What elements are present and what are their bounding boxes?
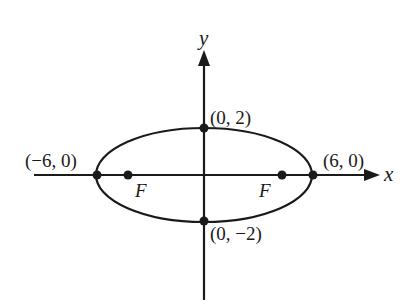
vertex-label-right: (6, 0) xyxy=(323,151,364,170)
vertex-point-top xyxy=(200,124,209,133)
vertex-label-left: (−6, 0) xyxy=(25,151,77,170)
x-axis-arrow-icon xyxy=(364,169,380,181)
focus-label-right: F xyxy=(259,181,271,200)
focus-point-right xyxy=(278,171,287,180)
focus-point-left xyxy=(124,171,133,180)
x-axis-label: x xyxy=(384,164,393,185)
focus-label-left: F xyxy=(135,181,147,200)
y-axis-label: y xyxy=(199,28,208,49)
vertex-label-bottom: (0, −2) xyxy=(210,224,262,243)
vertex-point-left xyxy=(93,171,102,180)
y-axis-arrow-icon xyxy=(198,50,210,66)
vertex-label-top: (0, 2) xyxy=(210,108,251,127)
vertex-point-right xyxy=(309,171,318,180)
vertex-point-bottom xyxy=(200,217,209,226)
